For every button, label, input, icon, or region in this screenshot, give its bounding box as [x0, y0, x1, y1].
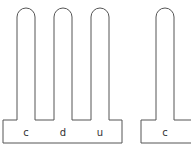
right-group-outline — [141, 8, 191, 143]
place-value-diagram: c d u c — [0, 0, 191, 145]
right-label-c: c — [162, 127, 168, 138]
left-label-u: u — [97, 127, 103, 138]
left-label-d: d — [60, 127, 66, 138]
left-label-c: c — [23, 127, 29, 138]
left-group-outline — [3, 8, 122, 143]
